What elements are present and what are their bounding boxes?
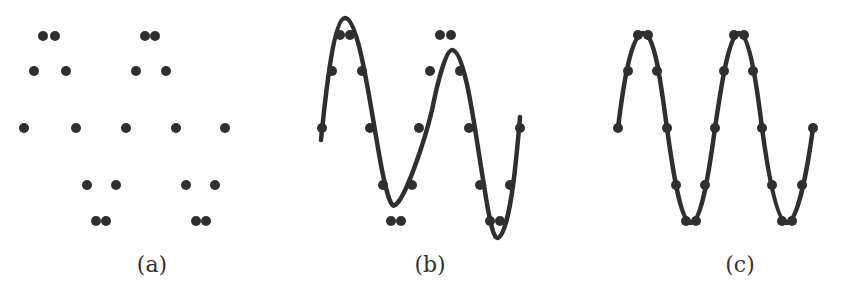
sample-point xyxy=(435,30,445,40)
sample-point xyxy=(700,180,710,190)
sample-point xyxy=(643,30,653,40)
sample-point xyxy=(475,180,485,190)
sample-point xyxy=(691,216,701,226)
sample-point xyxy=(131,66,141,76)
sample-point xyxy=(797,180,807,190)
panel-c-correct-fit xyxy=(613,30,818,226)
sample-point xyxy=(739,30,749,40)
sample-point xyxy=(150,31,160,41)
sample-point xyxy=(787,216,797,226)
sample-point xyxy=(757,123,767,133)
sample-point xyxy=(613,123,623,133)
sample-point xyxy=(455,66,465,76)
sample-point xyxy=(220,123,230,133)
sample-point xyxy=(317,123,327,133)
panel-b-aliased-fit xyxy=(317,18,525,238)
sample-point xyxy=(414,123,424,133)
sample-point xyxy=(748,66,758,76)
sample-point xyxy=(767,180,777,190)
panel-b-caption: (b) xyxy=(414,252,445,277)
sample-point xyxy=(191,216,201,226)
sample-point xyxy=(623,66,633,76)
sample-point xyxy=(171,123,181,133)
sample-point xyxy=(357,66,367,76)
sample-point xyxy=(82,180,92,190)
sample-point xyxy=(729,30,739,40)
sample-point xyxy=(378,180,388,190)
sample-point xyxy=(111,180,121,190)
sample-point xyxy=(201,216,211,226)
sample-point xyxy=(140,31,150,41)
sample-point xyxy=(485,216,495,226)
sample-point xyxy=(808,123,818,133)
sample-point xyxy=(386,216,396,226)
sample-point xyxy=(464,123,474,133)
sample-point xyxy=(327,66,337,76)
sample-point xyxy=(495,216,505,226)
sample-point xyxy=(662,123,672,133)
sample-point xyxy=(671,180,681,190)
panel-a-sample-points xyxy=(19,31,230,226)
sample-point xyxy=(19,123,29,133)
sample-point xyxy=(515,123,525,133)
sample-point xyxy=(681,216,691,226)
sample-point xyxy=(29,66,39,76)
sample-point xyxy=(396,216,406,226)
sample-point xyxy=(91,216,101,226)
sample-point xyxy=(210,180,220,190)
sample-point xyxy=(425,66,435,76)
sample-point xyxy=(181,180,191,190)
panel-a-caption: (a) xyxy=(137,252,167,277)
sample-point xyxy=(365,123,375,133)
sample-point xyxy=(335,30,345,40)
sample-point xyxy=(719,66,729,76)
sampling-figure xyxy=(0,0,843,295)
sample-point xyxy=(345,30,355,40)
sample-point xyxy=(652,66,662,76)
sample-point xyxy=(121,123,131,133)
sample-point xyxy=(633,30,643,40)
sample-point xyxy=(50,31,60,41)
sample-point xyxy=(446,30,456,40)
sample-point xyxy=(101,216,111,226)
sample-point xyxy=(777,216,787,226)
sample-point xyxy=(71,123,81,133)
sample-point xyxy=(505,180,515,190)
sample-point xyxy=(407,180,417,190)
sample-point xyxy=(61,66,71,76)
panel-c-caption: (c) xyxy=(725,252,755,277)
sample-point xyxy=(710,123,720,133)
sample-point xyxy=(38,31,48,41)
sample-point xyxy=(161,66,171,76)
